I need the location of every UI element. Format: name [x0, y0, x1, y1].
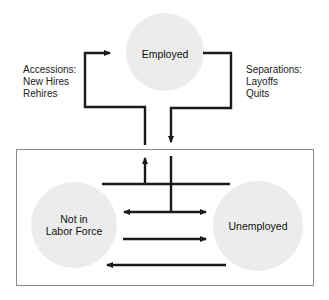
accessions-annotation: Accessions: New Hires Rehires: [23, 64, 76, 100]
accessions-title: Accessions:: [23, 64, 76, 76]
separations-item: Layoffs: [246, 76, 302, 88]
unemployed-label: Unemployed: [218, 220, 298, 232]
employed-label: Employed: [125, 48, 205, 60]
accessions-item: Rehires: [23, 88, 76, 100]
labor-flow-diagram: [0, 0, 329, 300]
nilf-label-line1: Not in: [34, 213, 114, 225]
not-in-labor-force-label: Not in Labor Force: [34, 213, 114, 237]
separations-item: Quits: [246, 88, 302, 100]
nilf-label-line2: Labor Force: [34, 225, 114, 237]
accessions-item: New Hires: [23, 76, 76, 88]
separations-annotation: Separations: Layoffs Quits: [246, 64, 302, 100]
separations-title: Separations:: [246, 64, 302, 76]
